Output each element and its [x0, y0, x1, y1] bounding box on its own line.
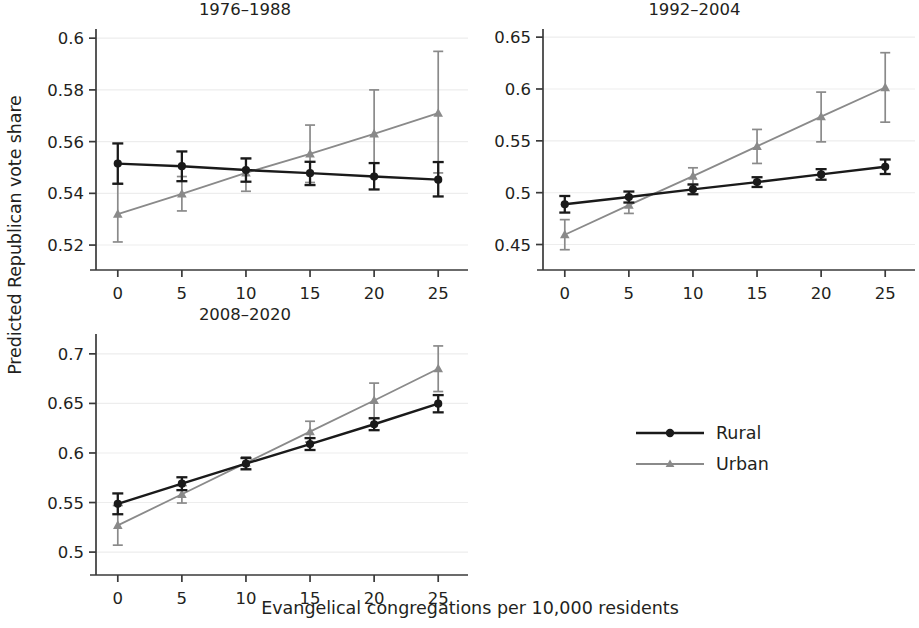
- svg-text:0.56: 0.56: [47, 133, 84, 152]
- plot-area: 0.650.60.550.50.450510152025: [470, 0, 919, 300]
- svg-text:0.65: 0.65: [47, 394, 84, 413]
- svg-text:20: 20: [364, 284, 385, 300]
- svg-text:5: 5: [624, 284, 635, 300]
- x-axis-label: Evangelical congregations per 10,000 res…: [90, 598, 850, 618]
- legend-label-rural: Rural: [716, 423, 761, 443]
- svg-text:25: 25: [428, 284, 449, 300]
- svg-text:5: 5: [177, 284, 188, 300]
- svg-text:15: 15: [747, 284, 768, 300]
- svg-text:0.52: 0.52: [47, 236, 84, 255]
- panel-1992-2004: 1992–2004 0.650.60.550.50.450510152025: [470, 0, 919, 300]
- svg-text:20: 20: [811, 284, 832, 300]
- svg-text:0.6: 0.6: [58, 29, 84, 48]
- panel-1976-1988: 1976–1988 0.60.580.560.540.520510152025: [20, 0, 470, 300]
- legend-swatch-rural-icon: [634, 423, 706, 443]
- svg-text:10: 10: [235, 284, 256, 300]
- plot-area: 0.60.580.560.540.520510152025: [20, 0, 470, 300]
- svg-text:0.65: 0.65: [494, 28, 531, 47]
- figure-root: Predicted Republican vote share 1976–198…: [0, 0, 919, 628]
- svg-text:0.6: 0.6: [58, 444, 84, 463]
- svg-text:0.7: 0.7: [58, 345, 84, 364]
- panel-2008-2020: 2008–2020 0.70.650.60.550.50510152025: [20, 305, 470, 605]
- svg-text:0.55: 0.55: [47, 494, 84, 513]
- legend: Rural Urban: [634, 417, 834, 479]
- svg-text:0.55: 0.55: [494, 132, 531, 151]
- svg-text:0.45: 0.45: [494, 236, 531, 255]
- legend-swatch-urban-icon: [634, 454, 706, 474]
- panel-title: 2008–2020: [20, 305, 470, 324]
- svg-text:0.58: 0.58: [47, 81, 84, 100]
- svg-text:15: 15: [300, 284, 321, 300]
- svg-text:0.5: 0.5: [505, 184, 531, 203]
- svg-text:0: 0: [113, 284, 124, 300]
- svg-text:0.6: 0.6: [505, 80, 531, 99]
- plot-area: 0.70.650.60.550.50510152025: [20, 305, 470, 605]
- svg-text:0.54: 0.54: [47, 184, 84, 203]
- panel-title: 1976–1988: [20, 0, 470, 19]
- svg-text:10: 10: [682, 284, 703, 300]
- svg-text:0.5: 0.5: [58, 543, 84, 562]
- legend-label-urban: Urban: [716, 454, 769, 474]
- svg-text:25: 25: [875, 284, 896, 300]
- panel-title: 1992–2004: [470, 0, 919, 19]
- legend-item-urban: Urban: [634, 448, 834, 479]
- svg-text:0: 0: [560, 284, 571, 300]
- legend-item-rural: Rural: [634, 417, 834, 448]
